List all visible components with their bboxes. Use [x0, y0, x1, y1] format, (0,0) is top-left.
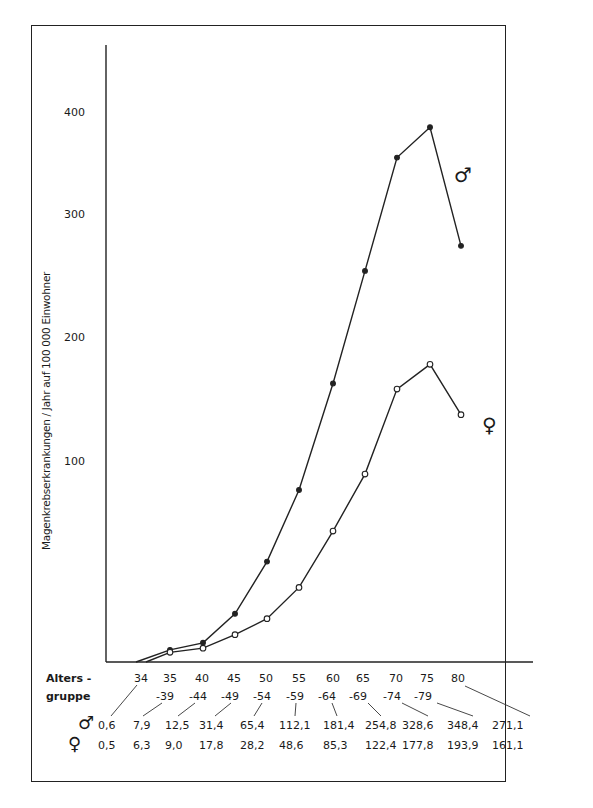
data-point	[201, 640, 206, 645]
male-value: 31,4	[199, 719, 224, 732]
age-group-start: 65	[356, 672, 370, 685]
female-value: 122,4	[365, 739, 397, 752]
female-value: 17,8	[199, 739, 224, 752]
data-point	[363, 268, 368, 273]
female-row-symbol: ♀	[68, 735, 81, 753]
female-value: 9,0	[165, 739, 183, 752]
age-group-start: 55	[292, 672, 306, 685]
male-value: 65,4	[240, 719, 265, 732]
data-point	[330, 528, 336, 534]
male-value: 181,4	[323, 719, 355, 732]
data-point	[167, 650, 173, 656]
age-group-end: -44	[189, 690, 207, 703]
age-group-start: 34	[134, 672, 148, 685]
female-value: 161,1	[492, 739, 524, 752]
data-point	[297, 488, 302, 493]
age-group-start: 35	[163, 672, 177, 685]
age-group-start: 75	[420, 672, 434, 685]
female-value: 0,5	[98, 739, 116, 752]
series-female	[146, 362, 464, 662]
female-value: 28,2	[240, 739, 265, 752]
data-point	[331, 381, 336, 386]
data-point	[265, 559, 270, 564]
age-group-start: 45	[227, 672, 241, 685]
female-value: 48,6	[279, 739, 304, 752]
y-tick-200: 200	[64, 331, 94, 344]
age-group-start: 70	[389, 672, 403, 685]
y-axis-label: Magenkrebserkrankungen / Jahr auf 100 00…	[40, 272, 52, 550]
data-point	[459, 243, 464, 248]
age-group-end: -54	[253, 690, 271, 703]
y-tick-400: 400	[64, 106, 94, 119]
age-group-start: 60	[326, 672, 340, 685]
data-point	[296, 585, 302, 591]
age-group-end: -49	[221, 690, 239, 703]
female-value: 177,8	[402, 739, 434, 752]
male-value: 348,4	[447, 719, 479, 732]
age-group-end: -79	[414, 690, 432, 703]
age-group-end: -69	[349, 690, 367, 703]
age-group-end: -74	[383, 690, 401, 703]
y-tick-300: 300	[64, 208, 94, 221]
male-row-symbol: ♂	[78, 714, 94, 732]
female-value: 85,3	[323, 739, 348, 752]
male-value: 12,5	[165, 719, 190, 732]
series-male	[136, 125, 463, 662]
age-group-start: 50	[259, 672, 273, 685]
age-group-end: -59	[286, 690, 304, 703]
age-group-end: -39	[156, 690, 174, 703]
male-legend-symbol: ♂	[454, 165, 472, 185]
data-point	[427, 362, 433, 368]
data-point	[394, 386, 400, 392]
y-tick-100: 100	[64, 455, 94, 468]
data-point	[362, 471, 368, 477]
data-point	[200, 645, 206, 651]
x-axis-label-line2: gruppe	[46, 690, 90, 703]
age-group-start: 40	[195, 672, 209, 685]
data-point	[458, 412, 464, 418]
female-legend-symbol: ♀	[482, 415, 497, 435]
age-group-start: 80	[451, 672, 465, 685]
line-chart	[0, 0, 593, 808]
data-point	[428, 125, 433, 130]
male-value: 328,6	[402, 719, 434, 732]
male-value: 254,8	[365, 719, 397, 732]
male-value: 0,6	[98, 719, 116, 732]
male-value: 7,9	[133, 719, 151, 732]
male-value: 271,1	[492, 719, 524, 732]
data-point	[395, 155, 400, 160]
x-axis-label-line1: Alters -	[46, 672, 91, 685]
female-value: 6,3	[133, 739, 151, 752]
data-point	[233, 611, 238, 616]
male-value: 112,1	[279, 719, 311, 732]
data-point	[232, 632, 238, 638]
female-value: 193,9	[447, 739, 479, 752]
data-point	[264, 616, 270, 622]
age-group-end: -64	[318, 690, 336, 703]
